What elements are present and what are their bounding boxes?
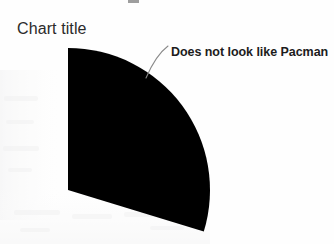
pie-slice-series-1[interactable] [68,48,210,232]
chart-page: Chart title Does not look like Pacman [0,0,334,244]
annotation-label[interactable]: Does not look like Pacman [171,45,328,60]
annotation-leader-line [146,46,168,78]
chart-title[interactable]: Chart title [17,19,87,39]
